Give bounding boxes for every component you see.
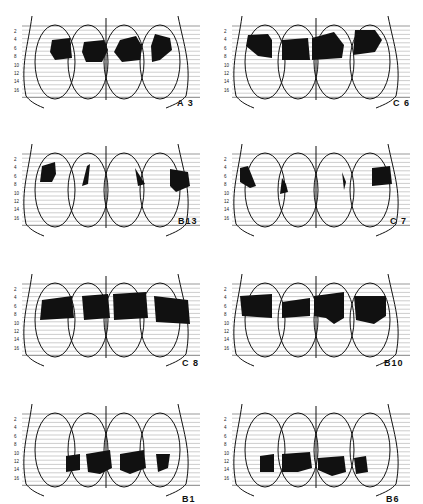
tick-label: 14 [224, 467, 229, 472]
tick-label: 6 [224, 174, 227, 179]
brain-diagram [210, 246, 421, 372]
lesion-right-dorsal [314, 292, 344, 324]
lesion-left-dorsal [282, 452, 312, 472]
tick-label: 4 [224, 165, 227, 170]
panel-b1: 246810121416B1 [0, 372, 211, 498]
panel-label: C 7 [390, 216, 407, 226]
tick-label: 12 [14, 71, 19, 76]
hemisphere-dorsal-right [104, 153, 144, 227]
hemisphere-lateral-left [245, 413, 285, 487]
tick-label: 2 [14, 417, 17, 422]
tick-label: 12 [224, 459, 229, 464]
panel-c7: 246810121416C 7 [210, 124, 421, 250]
tick-label: 8 [14, 442, 17, 447]
tick-label: 2 [224, 29, 227, 34]
panel-label: B10 [384, 358, 404, 368]
tick-label: 10 [224, 321, 229, 326]
lesion-right-dorsal [312, 32, 344, 60]
lateral-outline-left [24, 404, 44, 496]
hemisphere-dorsal-left [68, 283, 108, 357]
tick-label: 6 [14, 434, 17, 439]
panel-c8: 246810121416C 8 [0, 246, 211, 372]
brain-diagram [0, 246, 211, 372]
hemisphere-lateral-left [35, 25, 75, 99]
tick-label: 14 [14, 207, 19, 212]
hemisphere-lateral-right [350, 413, 390, 487]
lesion-right-lateral [151, 34, 172, 62]
tick-label: 14 [14, 79, 19, 84]
tick-label: 6 [224, 46, 227, 51]
panel-label: B13 [178, 216, 198, 226]
tick-label: 16 [224, 88, 229, 93]
tick-label: 16 [224, 346, 229, 351]
panel-label: A 3 [177, 98, 194, 108]
lesion-right-dorsal [114, 36, 142, 62]
lesion-right-dorsal [342, 172, 346, 190]
tick-label: 12 [224, 329, 229, 334]
tick-label: 4 [14, 295, 17, 300]
lesion-right-dorsal [113, 292, 148, 320]
tick-label: 10 [14, 451, 19, 456]
tick-label: 2 [224, 287, 227, 292]
hemisphere-dorsal-left [278, 283, 318, 357]
hemisphere-lateral-right [350, 153, 390, 227]
lesion-left-lateral [50, 38, 72, 60]
lesion-right-lateral [354, 456, 368, 474]
tick-label: 12 [14, 459, 19, 464]
tick-label: 8 [224, 312, 227, 317]
tick-label: 14 [224, 337, 229, 342]
panel-label: B1 [182, 494, 196, 504]
hemisphere-lateral-left [35, 283, 75, 357]
tick-label: 10 [14, 321, 19, 326]
lesion-left-lateral [66, 454, 80, 472]
tick-label: 10 [224, 63, 229, 68]
tick-label: 6 [224, 304, 227, 309]
tick-label: 6 [14, 46, 17, 51]
tick-label: 2 [14, 29, 17, 34]
lesion-right-lateral [372, 166, 392, 186]
tick-label: 6 [14, 304, 17, 309]
lesion-left-lateral [260, 454, 274, 472]
lateral-outline-left [234, 274, 254, 366]
tick-label: 4 [224, 425, 227, 430]
lateral-outline-left [24, 144, 44, 236]
tick-label: 12 [224, 199, 229, 204]
brain-diagram [0, 372, 211, 498]
tick-label: 10 [224, 451, 229, 456]
panel-b10: 246810121416B10 [210, 246, 421, 372]
tick-label: 8 [224, 54, 227, 59]
tick-label: 10 [14, 191, 19, 196]
lesion-left-lateral [240, 166, 256, 188]
tick-label: 14 [224, 207, 229, 212]
brain-diagram [210, 0, 421, 126]
tick-label: 4 [14, 37, 17, 42]
hemisphere-dorsal-left [278, 25, 318, 99]
tick-label: 14 [14, 467, 19, 472]
tick-label: 16 [224, 476, 229, 481]
tick-label: 6 [14, 174, 17, 179]
hemisphere-lateral-left [35, 413, 75, 487]
panel-b6: 246810121416B6 [210, 372, 421, 498]
tick-label: 4 [224, 295, 227, 300]
panel-label: C 8 [182, 358, 199, 368]
lateral-outline-left [24, 274, 44, 366]
tick-label: 16 [14, 88, 19, 93]
tick-label: 14 [224, 79, 229, 84]
tick-label: 2 [224, 157, 227, 162]
brain-diagram [210, 372, 421, 498]
tick-label: 8 [14, 182, 17, 187]
tick-label: 4 [14, 165, 17, 170]
tick-label: 2 [14, 287, 17, 292]
lateral-outline-left [234, 16, 254, 108]
lesion-right-lateral [154, 296, 190, 324]
hemisphere-lateral-right [140, 413, 180, 487]
tick-label: 6 [224, 434, 227, 439]
hemisphere-dorsal-right [314, 413, 354, 487]
tick-label: 16 [14, 476, 19, 481]
tick-label: 12 [224, 71, 229, 76]
tick-label: 14 [14, 337, 19, 342]
lateral-outline-left [24, 16, 44, 108]
tick-label: 8 [224, 182, 227, 187]
tick-label: 16 [224, 216, 229, 221]
lesion-right-lateral [156, 454, 170, 472]
